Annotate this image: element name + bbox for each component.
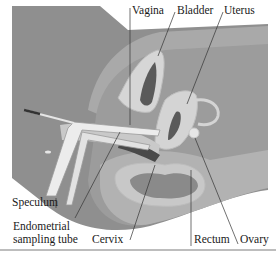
bottom-divider <box>0 249 276 251</box>
label-vagina: Vagina <box>132 4 164 16</box>
label-endometrial-line1: Endometrial <box>13 220 70 232</box>
anatomy-figure: Vagina Bladder Uterus Speculum Endometri… <box>0 0 276 254</box>
speculum-screw <box>45 151 51 154</box>
label-bladder: Bladder <box>177 4 213 16</box>
ovary-organ <box>189 128 199 138</box>
pelvic-cross-section-illustration <box>0 0 276 254</box>
label-ovary: Ovary <box>240 233 269 245</box>
label-speculum: Speculum <box>12 196 58 208</box>
label-endometrial-line2: sampling tube <box>13 233 78 245</box>
label-rectum: Rectum <box>194 233 230 245</box>
label-uterus: Uterus <box>224 4 255 16</box>
label-cervix: Cervix <box>92 233 123 245</box>
